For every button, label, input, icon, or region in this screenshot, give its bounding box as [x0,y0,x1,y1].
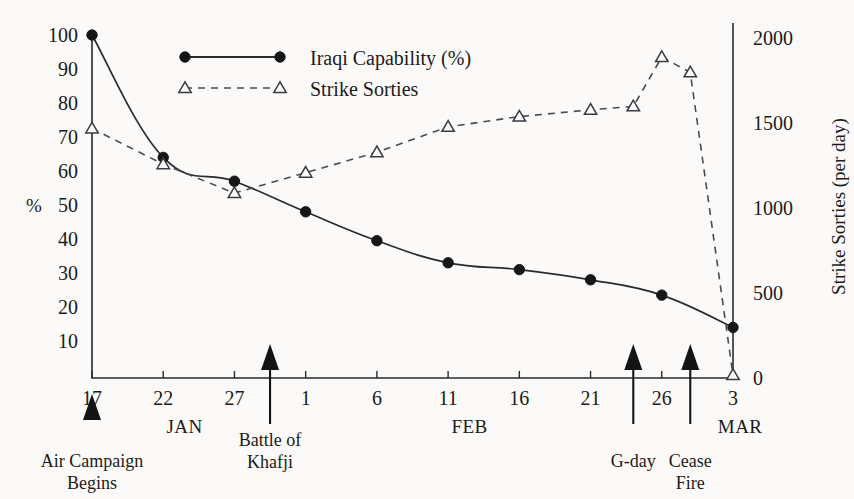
legend-marker-capability-left [180,52,190,62]
y2-axis-tick-label: 1000 [753,197,793,219]
annotation-label: G-day [611,451,656,471]
capability-data-point [87,30,97,40]
x-axis-tick-label: 1 [301,387,311,409]
y2-axis-tick-label: 2000 [753,27,793,49]
legend-label-capability: Iraqi Capability (%) [310,47,471,70]
sorties-data-point [371,146,383,157]
sorties-data-point [684,66,696,77]
y-axis-tick-label: 10 [58,330,78,352]
y-axis-tick-label: 90 [58,58,78,80]
annotation-label: Battle of [239,430,301,450]
y-axis-tick-label: 100 [48,24,78,46]
annotation-arrow-icon [624,344,642,370]
capability-data-point [443,258,453,268]
x-axis-tick-label: 3 [728,387,738,409]
x-axis-month-label: FEB [451,416,487,437]
capability-data-point [585,275,595,285]
capability-data-point [372,236,382,246]
x-axis-tick-label: 21 [581,387,601,409]
sorties-line [92,57,733,375]
y-axis-tick-label: 70 [58,126,78,148]
y-axis-unit-label: % [26,195,42,216]
y-axis-tick-label: 40 [58,228,78,250]
annotation-arrow-icon [681,344,699,370]
sorties-data-point [442,121,454,132]
x-axis-tick-label: 27 [224,387,244,409]
y-axis-tick-label: 80 [58,92,78,114]
legend-marker-sorties-right [274,82,286,93]
annotation-label: Khafji [247,452,293,472]
x-axis-tick-label: 6 [372,387,382,409]
x-axis-tick-label: 26 [652,387,672,409]
capability-data-point [229,176,239,186]
annotation-label: Air Campaign [41,451,143,471]
sorties-data-point [86,122,98,133]
war-timeline-chart: 100908070605040302010%2000150010005000St… [0,0,854,499]
sorties-data-point [656,51,668,62]
annotation-label: Fire [676,473,705,493]
sorties-data-point [584,104,596,115]
x-axis-tick-label: 22 [153,387,173,409]
annotation-arrow-icon [261,344,279,370]
y2-axis-tick-label: 0 [753,367,763,389]
x-axis-tick-label: 16 [509,387,529,409]
y-axis-tick-label: 20 [58,296,78,318]
y2-axis-tick-label: 500 [753,282,783,304]
y2-axis-title: Strike Sorties (per day) [828,118,850,295]
y2-axis-tick-label: 1500 [753,112,793,134]
capability-data-point [728,322,738,332]
sorties-data-point [627,100,639,111]
legend-label-sorties: Strike Sorties [310,78,419,100]
annotation-label: Cease [669,451,712,471]
y-axis-tick-label: 50 [58,194,78,216]
capability-data-point [514,264,524,274]
capability-data-point [300,207,310,217]
annotation-2 [261,344,279,424]
x-axis-tick-label: 11 [438,387,457,409]
x-axis-month-label: JAN [167,416,203,437]
legend-marker-sorties-left [179,82,191,93]
annotation-4 [681,344,699,424]
annotation-3 [624,344,642,424]
capability-data-point [657,290,667,300]
y-axis-tick-label: 60 [58,160,78,182]
x-axis-month-label: MAR [718,416,763,437]
annotation-label: Begins [67,473,117,493]
chart-container: 100908070605040302010%2000150010005000St… [0,0,854,499]
legend-marker-capability-right [275,52,285,62]
y-axis-tick-label: 30 [58,262,78,284]
sorties-data-point [727,369,739,380]
